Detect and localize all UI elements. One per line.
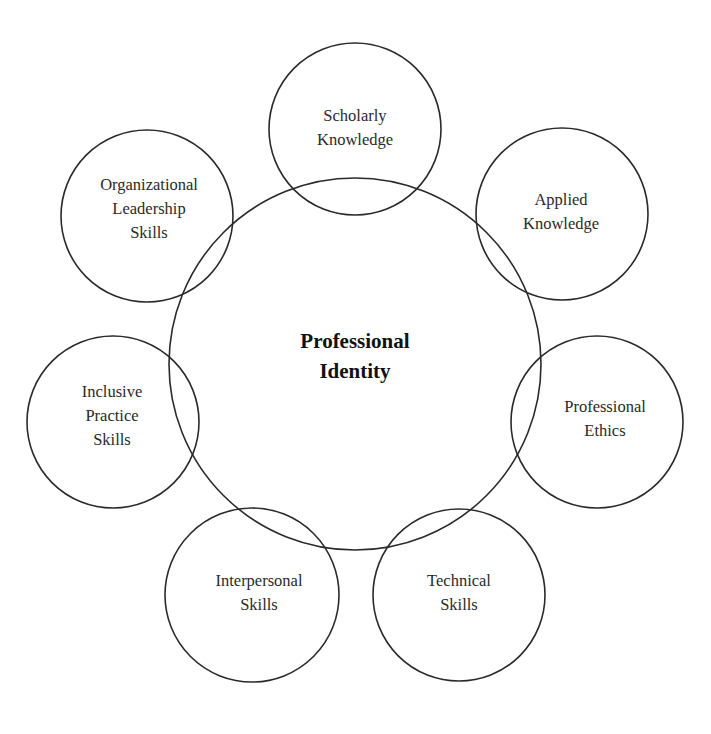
label-line: Skills [100,221,198,245]
label-scholarly-knowledge: Scholarly Knowledge [317,104,393,152]
label-line: Skills [82,428,142,452]
label-organizational-leadership-skills: Organizational Leadership Skills [100,173,198,245]
label-line: Technical [427,569,491,593]
label-line: Interpersonal [215,569,302,593]
label-line: Professional [564,395,646,419]
label-line: Ethics [564,419,646,443]
label-inclusive-practice-skills: Inclusive Practice Skills [82,380,142,452]
label-line: Organizational [100,173,198,197]
label-applied-knowledge: Applied Knowledge [523,188,599,236]
center-label-professional-identity: Professional Identity [300,326,409,386]
center-label-line: Professional [300,326,409,356]
label-interpersonal-skills: Interpersonal Skills [215,569,302,617]
label-line: Knowledge [317,128,393,152]
label-line: Skills [427,593,491,617]
label-line: Skills [215,593,302,617]
label-line: Knowledge [523,212,599,236]
label-technical-skills: Technical Skills [427,569,491,617]
label-professional-ethics: Professional Ethics [564,395,646,443]
label-line: Practice [82,404,142,428]
label-line: Leadership [100,197,198,221]
label-line: Scholarly [317,104,393,128]
label-line: Applied [523,188,599,212]
center-label-line: Identity [300,356,409,386]
label-line: Inclusive [82,380,142,404]
